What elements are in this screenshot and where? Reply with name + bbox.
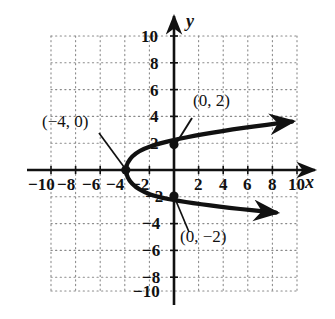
y-tick-label-2: 2 [150, 135, 159, 152]
y-tick-label-neg2: −2 [145, 188, 163, 205]
x-tick-label-neg10: −10 [28, 176, 55, 193]
y-tick-label-4: 4 [150, 108, 159, 125]
x-tick-label-10: 10 [288, 176, 305, 193]
leader-line-vertex [99, 133, 124, 167]
annotation-upper-intercept: (0, 2) [193, 92, 230, 109]
annotation-lower-intercept: (0, −2) [180, 228, 226, 245]
y-tick-label-neg4: −4 [142, 215, 160, 232]
y-tick-label-8: 8 [150, 55, 159, 72]
x-tick-label-4: 4 [219, 176, 228, 193]
y-tick-label-neg6: −6 [142, 242, 160, 259]
point-lower-intercept-marker [169, 191, 178, 200]
x-tick-label-8: 8 [268, 176, 277, 193]
x-tick-label-6: 6 [243, 176, 252, 193]
y-tick-label-neg10: −10 [133, 283, 160, 300]
annotation-vertex: (−4, 0) [42, 113, 88, 130]
x-tick-label-neg8: −8 [57, 176, 75, 193]
y-axis-name: y [186, 12, 194, 30]
x-tick-label-neg6: −6 [82, 176, 100, 193]
point-vertex-marker [121, 165, 130, 174]
graph-canvas [0, 0, 335, 319]
x-tick-label-neg4: −4 [106, 176, 124, 193]
y-tick-label-10: 10 [141, 28, 158, 45]
x-tick-label-2: 2 [194, 176, 203, 193]
graph-figure: −10 −8 −6 −4 −2 2 4 6 8 10 10 8 6 4 2 −2… [0, 0, 335, 319]
x-axis-name: x [305, 173, 314, 191]
y-tick-label-6: 6 [150, 82, 159, 99]
